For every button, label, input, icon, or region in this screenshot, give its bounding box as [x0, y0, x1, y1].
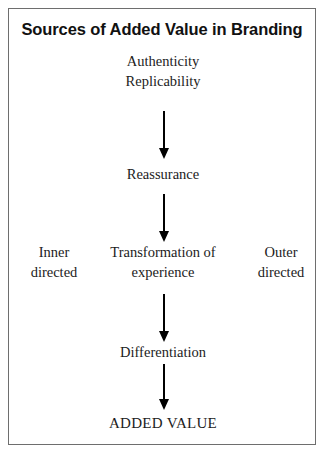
arrow-head-icon	[159, 399, 169, 410]
arrow-shaft	[163, 194, 165, 234]
node-outer-directed: Outer directed	[231, 242, 324, 282]
arrow-shaft	[163, 111, 165, 151]
node-added-value: ADDED VALUE	[9, 413, 317, 433]
figure-title: Sources of Added Value in Branding	[9, 20, 315, 39]
figure-frame: Sources of Added Value in Branding Authe…	[8, 8, 316, 445]
node-authenticity-replicability: Authenticity Replicability	[9, 51, 317, 91]
node-reassurance: Reassurance	[9, 164, 317, 184]
arrow-shaft	[163, 294, 165, 334]
arrow-head-icon	[159, 148, 169, 159]
node-differentiation: Differentiation	[9, 342, 317, 362]
arrow-head-icon	[159, 331, 169, 342]
arrow-head-icon	[159, 231, 169, 242]
arrow-shaft	[163, 364, 165, 402]
